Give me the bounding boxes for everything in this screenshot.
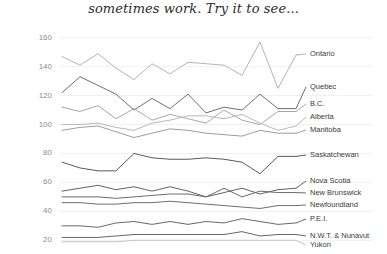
series-line <box>62 106 296 125</box>
series-line <box>62 42 296 88</box>
series-line <box>62 126 296 138</box>
gridlines <box>60 38 372 241</box>
legend-item-label[interactable]: Alberta <box>310 112 334 121</box>
y-axis-tick-label: 40 <box>18 206 52 215</box>
series-line <box>62 201 296 208</box>
legend-connector-line <box>296 235 306 236</box>
legend-item-label[interactable]: Ontario <box>310 49 335 58</box>
legend-item-label[interactable]: Quebec <box>310 82 336 91</box>
series-line <box>62 232 296 238</box>
legend-connector-line <box>296 155 306 156</box>
legend-item-label[interactable]: P.E.I. <box>310 214 327 223</box>
y-axis-tick-label: 160 <box>18 33 52 42</box>
series-line <box>62 219 296 228</box>
legend-item-label[interactable]: Newfoundland <box>310 200 358 209</box>
y-axis-tick-label: 80 <box>18 148 52 157</box>
legend-item-label[interactable]: B.C. <box>310 99 325 108</box>
y-axis-tick-label: 20 <box>18 235 52 244</box>
y-axis-tick-label: 60 <box>18 177 52 186</box>
series-line <box>62 77 296 113</box>
y-axis-tick-label: 100 <box>18 120 52 129</box>
legend-item-label[interactable]: Yukon <box>310 240 331 249</box>
legend-item-label[interactable]: New Brunswick <box>310 188 361 197</box>
legend-connector-line <box>296 54 306 55</box>
legend-connector-line <box>296 130 306 133</box>
y-axis-tick-label: 120 <box>18 91 52 100</box>
legend-connector-line <box>296 219 306 223</box>
legend-item-label[interactable]: Manitoba <box>310 125 341 134</box>
legend-connector-line <box>296 240 306 245</box>
legend-item-label[interactable]: N.W.T. & Nunavut <box>310 231 369 240</box>
legend-line-markers <box>296 54 306 245</box>
legend-item-label[interactable]: Nova Scotia <box>310 176 350 185</box>
y-axis-tick-label: 140 <box>18 62 52 71</box>
legend-connector-line <box>296 205 306 206</box>
series-line <box>62 153 296 173</box>
legend-item-label[interactable]: Saskatchewan <box>310 150 359 159</box>
line-chart: sometimes work. Try it to see... 2040608… <box>0 0 387 254</box>
